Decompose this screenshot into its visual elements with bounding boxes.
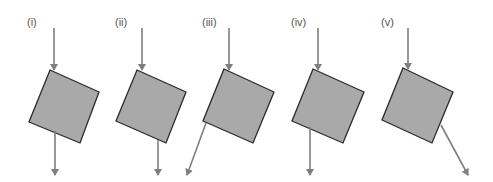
outgoing-arrow-icon [187, 123, 206, 175]
outgoing-arrow-icon [441, 125, 468, 175]
panel-i [29, 28, 99, 175]
panels-group [29, 28, 468, 175]
panel-label-iv: (iv) [291, 17, 306, 28]
diagram-canvas [0, 0, 493, 182]
panel-label-ii: (ii) [115, 17, 127, 28]
panel-iv [292, 28, 364, 175]
square-block [203, 69, 274, 143]
panel-iii [187, 28, 274, 175]
square-block [29, 70, 99, 143]
square-block [116, 70, 186, 143]
panel-ii [116, 28, 186, 175]
square-block [382, 68, 453, 143]
panel-v [382, 28, 468, 175]
panel-label-v: (v) [381, 17, 394, 28]
panel-label-iii: (iii) [202, 17, 217, 28]
square-block [292, 69, 364, 143]
panel-label-i: (i) [27, 17, 37, 28]
